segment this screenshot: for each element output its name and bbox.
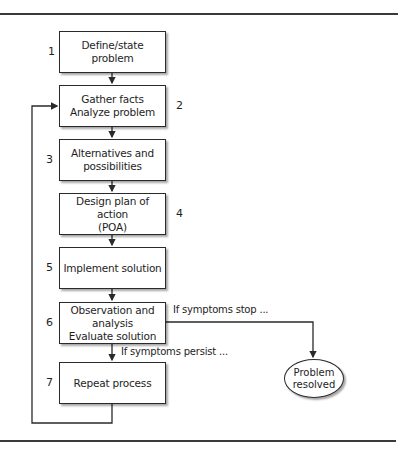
step-box-7: Repeat process bbox=[59, 362, 166, 404]
step-1-text: Define/state problem bbox=[60, 39, 165, 65]
step-number-5: 5 bbox=[46, 261, 53, 274]
terminal-text-line2: resolved bbox=[293, 379, 336, 391]
step-number-3: 3 bbox=[46, 153, 53, 166]
symptoms-persist-label: If symptoms persist ... bbox=[121, 346, 228, 357]
problem-resolved-terminal: Problem resolved bbox=[284, 359, 344, 398]
step-4-text-line1: Design plan of action bbox=[60, 195, 165, 221]
step-6-text-line1: Observation and bbox=[70, 304, 154, 317]
step-3-text-line2: possibilities bbox=[83, 160, 142, 173]
step-4-text-line2: (POA) bbox=[98, 221, 127, 234]
step-2-text-line2: Analyze problem bbox=[70, 106, 155, 119]
step-box-6: Observation and analysis Evaluate soluti… bbox=[59, 302, 166, 344]
step-number-6: 6 bbox=[46, 316, 53, 329]
step-6-text-line2: analysis bbox=[92, 317, 133, 330]
step-2-text-line1: Gather facts bbox=[81, 93, 144, 106]
step-box-4: Design plan of action (POA) bbox=[59, 193, 166, 235]
step-box-1: Define/state problem bbox=[59, 31, 166, 73]
step-3-text-line1: Alternatives and bbox=[71, 147, 154, 160]
step-box-2: Gather facts Analyze problem bbox=[59, 85, 166, 127]
symptoms-stop-label: If symptoms stop ... bbox=[173, 304, 268, 315]
step-number-2: 2 bbox=[176, 99, 183, 112]
step-number-7: 7 bbox=[46, 376, 53, 389]
terminal-text-line1: Problem bbox=[294, 367, 335, 379]
step-number-1: 1 bbox=[48, 45, 55, 58]
step-5-text: Implement solution bbox=[63, 262, 161, 275]
step-6-text-line3: Evaluate solution bbox=[69, 330, 156, 343]
step-box-5: Implement solution bbox=[59, 247, 166, 289]
step-box-3: Alternatives and possibilities bbox=[59, 139, 166, 181]
step-7-text: Repeat process bbox=[74, 377, 152, 390]
step-number-4: 4 bbox=[176, 207, 183, 220]
